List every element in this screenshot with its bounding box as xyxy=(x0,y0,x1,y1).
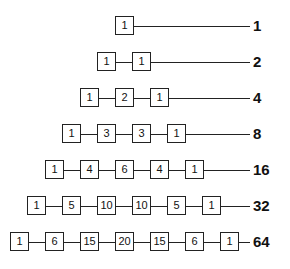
row-sum-label: 8 xyxy=(253,125,261,143)
value-box: 1 xyxy=(150,88,169,107)
row-sum-label: 16 xyxy=(253,161,270,179)
triangle-row: 161520156164 xyxy=(0,232,290,254)
value-box: 1 xyxy=(27,196,46,215)
value-box: 15 xyxy=(150,232,169,251)
row-sum-label: 64 xyxy=(253,233,270,251)
value-box: 2 xyxy=(115,88,134,107)
value-box: 1 xyxy=(202,196,221,215)
value-box: 1 xyxy=(80,88,99,107)
connector-line xyxy=(89,98,250,99)
value-box: 4 xyxy=(80,160,99,179)
triangle-row: 11 xyxy=(0,16,290,38)
value-box: 1 xyxy=(220,232,239,251)
value-box: 20 xyxy=(115,232,134,251)
value-box: 1 xyxy=(167,124,186,143)
row-sum-label: 32 xyxy=(253,197,270,215)
value-box: 5 xyxy=(62,196,81,215)
connector-line xyxy=(124,26,250,27)
value-box: 1 xyxy=(185,160,204,179)
row-sum-label: 4 xyxy=(253,89,261,107)
triangle-row: 1464116 xyxy=(0,160,290,182)
value-box: 10 xyxy=(132,196,151,215)
value-box: 5 xyxy=(167,196,186,215)
triangle-row: 13318 xyxy=(0,124,290,146)
value-box: 6 xyxy=(115,160,134,179)
triangle-row: 112 xyxy=(0,52,290,74)
connector-line xyxy=(107,62,251,63)
value-box: 1 xyxy=(115,16,134,35)
value-box: 10 xyxy=(97,196,116,215)
value-box: 1 xyxy=(132,52,151,71)
row-sum-label: 2 xyxy=(253,53,261,71)
value-box: 1 xyxy=(45,160,64,179)
value-box: 3 xyxy=(97,124,116,143)
value-box: 3 xyxy=(132,124,151,143)
value-box: 1 xyxy=(62,124,81,143)
row-sum-label: 1 xyxy=(253,17,261,35)
triangle-row: 1510105132 xyxy=(0,196,290,218)
value-box: 1 xyxy=(10,232,29,251)
value-box: 4 xyxy=(150,160,169,179)
value-box: 6 xyxy=(185,232,204,251)
value-box: 6 xyxy=(45,232,64,251)
triangle-row: 1214 xyxy=(0,88,290,110)
value-box: 15 xyxy=(80,232,99,251)
value-box: 1 xyxy=(97,52,116,71)
